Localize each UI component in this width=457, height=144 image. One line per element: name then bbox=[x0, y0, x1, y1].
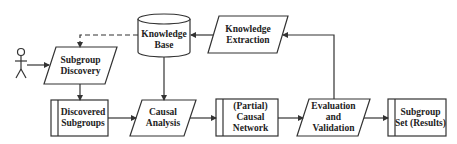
subgroup-set-label: Subgroup Set (Results) bbox=[395, 99, 446, 136]
evaluation-validation-label: Evaluation and Validation bbox=[303, 99, 364, 136]
subgroup-discovery-label: Subgroup Discovery bbox=[50, 47, 111, 84]
edge-knowledge-base-to-subgroup-discovery bbox=[80, 35, 138, 47]
actor-icon bbox=[15, 49, 27, 79]
knowledge-extraction-label: Knowledge Extraction bbox=[213, 16, 283, 53]
causal-analysis-label: Causal Analysis bbox=[136, 100, 190, 136]
discovered-subgroups-label: Discovered Subgroups bbox=[58, 100, 108, 136]
partial-causal-network-label: (Partial) Causal Network bbox=[223, 99, 278, 136]
edge-evaluation-to-knowledge-extraction bbox=[283, 35, 334, 99]
knowledge-base-label: Knowledge Base bbox=[138, 25, 190, 55]
